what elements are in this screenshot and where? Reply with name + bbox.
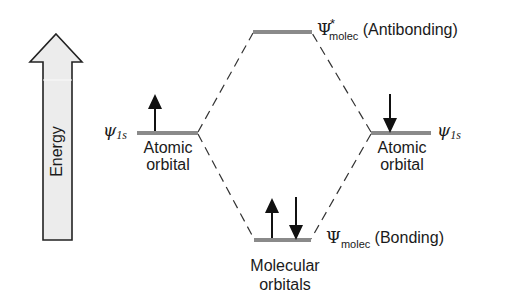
level-antibonding [253,30,312,34]
atomic-orbital-right-label: Atomic orbital [366,139,438,173]
electron-up-bonding-icon [265,198,279,238]
label-line: orbitals [235,275,335,294]
label-line: Atomic [132,139,204,156]
molec-subscript: molec [329,30,358,42]
energy-label: Energy [48,122,65,182]
molecular-orbitals-label: Molecular orbitals [235,256,335,294]
antibonding-desc: (Antibonding) [363,21,458,38]
correlation-lines [198,33,371,239]
bonding-label: Ψmolec (Bonding) [326,229,444,248]
level-atomic-left [137,131,198,135]
psi-symbol: ψ [437,120,450,140]
electron-down-right-icon [383,94,397,133]
psi-subscript: 1s [116,128,127,142]
label-line: Atomic [366,139,438,156]
label-line: orbital [366,156,438,173]
psi-1s-left: ψ1s [103,122,127,141]
psi-symbol: Ψ [326,227,341,247]
label-line: orbital [132,156,204,173]
molec-subscript: molec [341,238,370,250]
label-line: Molecular [235,256,335,275]
level-atomic-right [371,131,431,135]
level-bonding [254,238,311,242]
star-superscript: * [330,16,335,31]
atomic-orbital-left-label: Atomic orbital [132,139,204,173]
psi-1s-right: ψ1s [437,122,461,141]
electron-up-left-icon [148,94,162,131]
psi-subscript: 1s [450,128,461,142]
antibonding-label: Ψ*molec (Antibonding) [317,21,458,40]
bonding-desc: (Bonding) [375,229,444,246]
psi-symbol: ψ [103,120,116,140]
electron-down-bonding-icon [289,197,303,240]
